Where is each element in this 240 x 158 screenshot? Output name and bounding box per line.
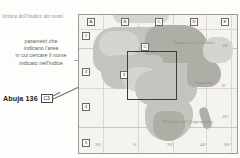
callout-line-1: parametri che xyxy=(6,38,76,45)
index-entry-page: 136 xyxy=(25,94,37,103)
longitude-tick-20e: 20° xyxy=(167,142,174,147)
label-equator: Equatore xyxy=(195,80,214,85)
index-entry-name: Abuja xyxy=(3,94,23,103)
callout-text: parametri che indicano l'area in cui cer… xyxy=(6,38,76,67)
figure-title: lettura dell'indice dei nomi xyxy=(2,13,74,20)
grid-column-c[interactable]: C xyxy=(155,18,163,26)
longitude-tick-40e: 40° xyxy=(200,142,207,147)
longitude-tick-60e: 60° xyxy=(224,142,231,147)
label-tropic-of-cancer: Tropico del Cancro xyxy=(173,40,214,45)
longitude-tick-20w: 20° xyxy=(95,142,102,147)
figure-root: lettura dell'indice dei nomi parametri c… xyxy=(0,0,240,158)
grid-row-3[interactable]: 3 xyxy=(82,68,90,76)
grid-column-d[interactable]: D xyxy=(190,18,198,26)
callout-line-4: indicato nell'indice xyxy=(6,60,76,67)
grid-row-2[interactable]: 2 xyxy=(82,32,90,40)
highlight-rectangle[interactable] xyxy=(127,51,177,100)
africa-map[interactable]: A B C D E 2 3 4 5 C 3 Tropico del Cancro… xyxy=(78,14,238,154)
grid-row-4[interactable]: 4 xyxy=(82,103,90,111)
label-tropic-of-capricorn: Tropico del Capricorno xyxy=(163,119,213,124)
grid-row-5[interactable]: 5 xyxy=(82,139,90,147)
meridian-60e xyxy=(231,15,232,153)
index-entry: Abuja 136 C3 xyxy=(3,94,53,103)
callout-line-3: in cui cercare il nome xyxy=(6,52,76,59)
grid-column-e[interactable]: E xyxy=(221,18,229,26)
callout-line-2: indicano l'area xyxy=(6,45,76,52)
grid-column-b[interactable]: B xyxy=(121,18,129,26)
latitude-tick-20n: 20° xyxy=(222,43,229,48)
grid-inner-column-c: C xyxy=(141,43,149,51)
latitude-tick-20s: 20° xyxy=(222,114,229,119)
grid-column-a[interactable]: A xyxy=(87,18,95,26)
latitude-tick-0: 0° xyxy=(222,83,227,88)
longitude-tick-0: 0° xyxy=(133,142,138,147)
